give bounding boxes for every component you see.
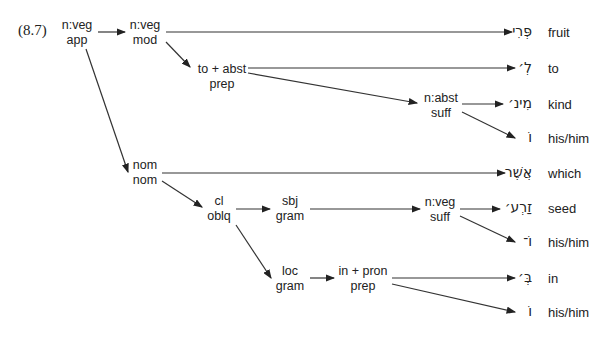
leaf-gloss: seed (548, 201, 576, 216)
leaf-hebrew: וֹ (492, 129, 532, 145)
leaf-gloss: his/him (548, 305, 589, 320)
node-category: n:veg (130, 18, 161, 33)
node-category: n:abst (424, 91, 458, 106)
node-category: loc (276, 264, 304, 279)
leaf-hebrew: זַרְע׳ (492, 199, 532, 215)
leaf-gloss: his/him (548, 235, 589, 250)
node-category: in + pron (339, 264, 388, 279)
node-app: n:veg app (62, 18, 93, 48)
leaf-gloss: fruit (548, 25, 570, 40)
node-suff-abst: n:abst suff (424, 91, 458, 121)
node-category: to + abst (198, 62, 246, 77)
leaf-hebrew: וֹ (492, 303, 532, 319)
node-relation: gram (276, 279, 304, 294)
node-prep-to-abst: to + abst prep (198, 62, 246, 92)
node-relation: mod (130, 33, 161, 48)
node-nom: nom nom (133, 158, 157, 188)
node-oblq: cl oblq (207, 194, 231, 224)
node-category: nom (133, 158, 157, 173)
node-relation: oblq (207, 209, 231, 224)
node-category: n:veg (425, 195, 456, 210)
node-relation: gram (276, 209, 304, 224)
node-relation: prep (339, 279, 388, 294)
node-sbj: sbj gram (276, 194, 304, 224)
leaf-gloss: in (548, 271, 558, 286)
node-prep-in-pron: in + pron prep (339, 264, 388, 294)
leaf-gloss: kind (548, 97, 572, 112)
leaf-hebrew: וֹ־ (492, 233, 532, 249)
node-loc: loc gram (276, 264, 304, 294)
node-relation: suff (424, 106, 458, 121)
node-suff-veg: n:veg suff (425, 195, 456, 225)
leaf-hebrew: פְּרִי (492, 23, 532, 39)
node-relation: app (62, 33, 93, 48)
node-category: sbj (276, 194, 304, 209)
example-number: (8.7) (18, 22, 47, 39)
leaf-hebrew: לְ׳ (492, 59, 532, 75)
leaf-hebrew: בְּ׳ (492, 269, 532, 285)
leaf-gloss: to (548, 61, 559, 76)
node-relation: nom (133, 173, 157, 188)
node-relation: suff (425, 210, 456, 225)
node-category: n:veg (62, 18, 93, 33)
leaf-gloss: his/him (548, 131, 589, 146)
node-category: cl (207, 194, 231, 209)
leaf-gloss: which (548, 166, 581, 181)
leaf-hebrew: מִינ׳ (492, 95, 532, 111)
node-mod: n:veg mod (130, 18, 161, 48)
leaf-hebrew: אֲשֶׁר (492, 164, 532, 180)
node-relation: prep (198, 77, 246, 92)
